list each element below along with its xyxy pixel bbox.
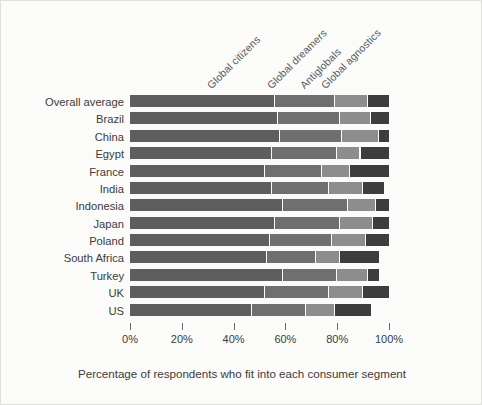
bar-row xyxy=(130,286,389,298)
x-tick xyxy=(389,323,390,330)
bar-segment xyxy=(267,251,316,263)
category-label: UK xyxy=(24,288,124,299)
bar-segment xyxy=(272,147,337,159)
bar-segment xyxy=(270,234,332,246)
bar-segment xyxy=(306,304,334,316)
bar-row xyxy=(130,147,389,159)
category-axis: Overall averageBrazilChinaEgyptFranceInd… xyxy=(23,93,124,319)
bar-segment xyxy=(371,112,389,124)
plot-area xyxy=(130,93,389,319)
bar-row xyxy=(130,112,389,124)
bar-segment xyxy=(252,304,306,316)
category-label: South Africa xyxy=(24,253,124,264)
bar-segment xyxy=(278,112,340,124)
bar-segment xyxy=(130,304,252,316)
bar-segment xyxy=(342,130,378,142)
bar-row xyxy=(130,165,389,177)
bar-segment xyxy=(130,95,275,107)
bar-segment xyxy=(335,304,371,316)
bar-segment xyxy=(130,217,275,229)
bar-segment xyxy=(130,199,283,211)
x-tick-label: 100% xyxy=(375,333,403,345)
x-tick-label: 0% xyxy=(122,333,138,345)
bar-segment xyxy=(335,95,369,107)
bar-segment xyxy=(265,286,330,298)
bar-segment xyxy=(368,95,389,107)
bar-segment xyxy=(280,130,342,142)
bar-segment xyxy=(130,165,265,177)
x-tick-label: 20% xyxy=(171,333,193,345)
bar-row xyxy=(130,199,389,211)
category-label: Japan xyxy=(24,219,124,230)
bar-segment xyxy=(283,269,337,281)
bar-row xyxy=(130,269,389,281)
bar-row xyxy=(130,95,389,107)
bar-segment xyxy=(366,234,389,246)
bar-segment xyxy=(130,182,272,194)
bar-segment xyxy=(361,147,389,159)
category-label: Indonesia xyxy=(24,201,124,212)
bar-segment xyxy=(329,286,363,298)
bar-segment xyxy=(348,199,376,211)
x-tick-label: 80% xyxy=(326,333,348,345)
bar-segment xyxy=(376,199,389,211)
category-label: China xyxy=(24,132,124,143)
bar-segment xyxy=(130,251,267,263)
segment-annotation: Global citizens xyxy=(205,33,263,91)
x-axis: 0%20%40%60%80%100% xyxy=(130,323,389,357)
category-label: Brazil xyxy=(24,114,124,125)
bar-segment xyxy=(265,165,322,177)
bar-segment xyxy=(379,130,389,142)
bar-segment xyxy=(130,130,280,142)
bar-segment xyxy=(275,95,335,107)
category-label: Poland xyxy=(24,236,124,247)
bar-segment xyxy=(350,165,389,177)
bar-row xyxy=(130,251,389,263)
bar-row xyxy=(130,130,389,142)
bar-segment xyxy=(337,269,368,281)
bar-segment xyxy=(275,217,340,229)
bar-segment xyxy=(337,147,360,159)
bar-row xyxy=(130,234,389,246)
bar-segment xyxy=(283,199,348,211)
bar-segment xyxy=(316,251,339,263)
bar-row xyxy=(130,304,389,316)
category-label: France xyxy=(24,167,124,178)
bar-segment xyxy=(373,217,389,229)
category-label: Overall average xyxy=(24,97,124,108)
bar-segment xyxy=(340,112,371,124)
bar-segment xyxy=(340,251,379,263)
bar-segment xyxy=(340,217,374,229)
bar-segment xyxy=(322,165,350,177)
bar-segment xyxy=(363,286,389,298)
x-tick xyxy=(285,323,286,330)
category-label: Egypt xyxy=(24,149,124,160)
x-tick-label: 60% xyxy=(274,333,296,345)
category-label: US xyxy=(24,306,124,317)
bar-row xyxy=(130,217,389,229)
bar-segment xyxy=(332,234,366,246)
bar-segment xyxy=(368,269,378,281)
bar-row xyxy=(130,182,389,194)
category-label: Turkey xyxy=(24,271,124,282)
x-tick xyxy=(337,323,338,330)
bar-segment xyxy=(130,147,272,159)
bar-segment xyxy=(272,182,329,194)
x-tick-label: 40% xyxy=(223,333,245,345)
bar-segment xyxy=(363,182,384,194)
bar-segment xyxy=(329,182,363,194)
x-axis-title: Percentage of respondents who fit into e… xyxy=(1,367,482,380)
bar-segment xyxy=(130,286,265,298)
x-tick xyxy=(182,323,183,330)
bar-segment xyxy=(130,234,270,246)
x-tick xyxy=(234,323,235,330)
bar-segment xyxy=(130,269,283,281)
chart-figure: Global citizensGlobal dreamersAntiglobal… xyxy=(0,0,482,405)
category-label: India xyxy=(24,184,124,195)
bar-segment xyxy=(130,112,278,124)
x-tick xyxy=(130,323,131,330)
